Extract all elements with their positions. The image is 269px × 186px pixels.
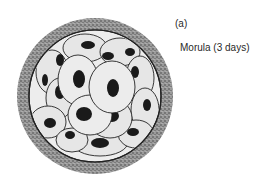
blastomeres xyxy=(30,34,159,156)
morula-diagram xyxy=(0,0,269,186)
caption: Morula (3 days) xyxy=(180,42,249,53)
panel-label: (a) xyxy=(175,18,187,29)
